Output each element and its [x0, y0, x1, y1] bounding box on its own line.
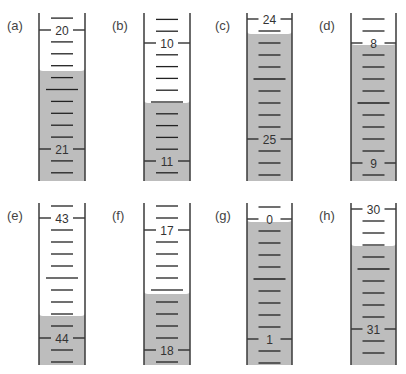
burette-label: (a) [7, 18, 23, 33]
scale-number: 8 [370, 37, 377, 51]
scale-number: 17 [160, 224, 174, 238]
scale-number: 25 [263, 133, 277, 147]
burette-label: (g) [215, 208, 231, 223]
burette-e: (e)4344 [7, 203, 85, 365]
burette-c: (c)2425 [215, 13, 292, 182]
scale-number: 0 [266, 213, 273, 227]
scale-number: 21 [55, 143, 69, 157]
liquid-fill [247, 31, 292, 181]
burette-label: (c) [215, 18, 230, 33]
burette-g: (g)01 [215, 203, 292, 365]
burette-h: (h)3031 [319, 203, 396, 366]
burette-b: (b)1011 [112, 13, 190, 181]
scale-number: 30 [367, 203, 381, 217]
scale-number: 11 [161, 155, 174, 169]
liquid-fill [144, 100, 190, 181]
scale-number: 9 [370, 157, 377, 171]
scale-number: 43 [55, 212, 69, 226]
burette-label: (b) [112, 18, 128, 33]
burette-label: (d) [319, 18, 335, 33]
liquid-fill [351, 243, 396, 365]
burette-d: (d)89 [319, 13, 396, 181]
burette-label: (e) [7, 208, 23, 223]
burette-f: (f)1718 [112, 203, 190, 365]
burette-a: (a)2021 [7, 13, 85, 181]
burette-label: (h) [319, 208, 335, 223]
scale-number: 10 [160, 37, 174, 51]
scale-number: 44 [55, 332, 69, 346]
scale-number: 1 [266, 333, 273, 347]
scale-number: 24 [263, 13, 277, 27]
burette-label: (f) [112, 208, 124, 223]
scale-number: 31 [367, 323, 381, 337]
scale-number: 18 [160, 344, 174, 358]
burette-diagram: (a)2021(b)1011(c)2425(d)89(e)4344(f)1718… [0, 0, 406, 374]
scale-number: 20 [55, 24, 69, 38]
liquid-fill [39, 68, 85, 181]
